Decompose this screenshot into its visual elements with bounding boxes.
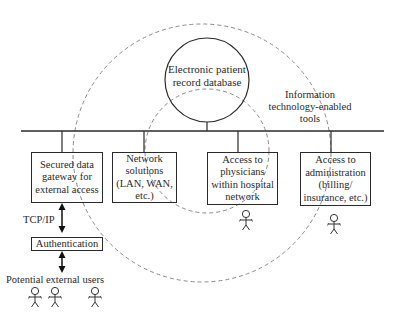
network-solutions-label: Network solutions (LAN, WAN, etc.): [116, 153, 173, 203]
administration-access-label: Access to administration (billing/ insur…: [304, 154, 368, 204]
physician-user-icon: [240, 210, 253, 230]
admin-user-icon: [328, 214, 341, 234]
external-users-label: Potential external users: [6, 274, 118, 286]
external-user-icon-1: [29, 287, 42, 307]
network-solutions-box: Network solutions (LAN, WAN, etc.): [112, 152, 177, 203]
physicians-access-box: Access to physicians within hospital net…: [207, 152, 278, 205]
external-user-icon-3: [89, 287, 102, 307]
administration-access-box: Access to administration (billing/ insur…: [300, 152, 371, 206]
auth-users-arrow: [59, 251, 66, 273]
gateway-box: Secured data gateway for external access: [31, 152, 103, 203]
gateway-box-label: Secured data gateway for external access: [35, 159, 98, 197]
authentication-box: Authentication: [31, 237, 103, 251]
it-tools-label: Information technology-enabled tools: [265, 89, 355, 125]
physicians-access-label: Access to physicians within hospital net…: [211, 154, 274, 204]
database-label: Electronic patient record database: [165, 63, 249, 89]
tcpip-arrow: [59, 203, 66, 233]
tcpip-label: TCP/IP: [23, 214, 59, 226]
authentication-label: Authentication: [36, 238, 98, 251]
external-user-icon-2: [49, 287, 62, 307]
